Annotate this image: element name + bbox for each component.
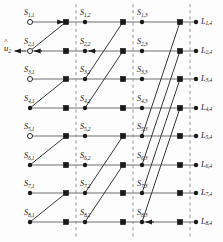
label-c3-r2-subscript: 2,3 — [141, 41, 147, 47]
square-node-c3-r2[interactable] — [120, 48, 125, 53]
dot-node-c4-r2[interactable] — [194, 49, 198, 53]
dot-node-c2-r3[interactable] — [83, 77, 87, 81]
square-node-c2-r7[interactable] — [63, 190, 68, 195]
square-node-c2-r2[interactable] — [63, 48, 68, 53]
u-hat-2-label: u2 — [4, 44, 11, 53]
label-c1-r8-subscript: 8,1 — [28, 212, 34, 218]
label-c4-r4-subscript: 4,4 — [205, 106, 211, 112]
dot-node-c4-r8[interactable] — [194, 220, 198, 224]
label-c4-r5: L5,4 — [201, 132, 212, 140]
dot-node-c1-r6[interactable] — [28, 163, 32, 167]
label-c4-r1: L1,4 — [201, 18, 212, 26]
dot-node-c3-r5[interactable] — [140, 134, 144, 138]
dot-node-c3-r8[interactable] — [140, 220, 144, 224]
dot-node-c1-r4[interactable] — [28, 106, 32, 110]
label-c3-r1-subscript: 1,3 — [141, 12, 147, 18]
label-c2-r3-subscript: 3,2 — [84, 69, 90, 75]
square-node-c2-r3[interactable] — [63, 76, 68, 81]
label-c1-r6-subscript: 6,1 — [28, 155, 34, 161]
open-circle-node-c1-r5[interactable] — [28, 134, 33, 139]
dot-node-c2-r1[interactable] — [83, 20, 87, 24]
label-c2-r5: S5,2 — [80, 123, 90, 131]
label-c2-r4-subscript: 4,2 — [84, 98, 90, 104]
dot-node-c4-r1[interactable] — [194, 20, 198, 24]
label-c4-r2: L2,4 — [201, 47, 212, 55]
square-node-c3-r4[interactable] — [120, 105, 125, 110]
dot-node-c3-r3[interactable] — [140, 77, 144, 81]
square-node-c4-r7[interactable] — [177, 190, 182, 195]
label-c2-r1: S1,2 — [80, 9, 90, 17]
square-node-c3-r6[interactable] — [120, 162, 125, 167]
label-c4-r3: L3,4 — [201, 75, 212, 83]
square-node-c3-r8[interactable] — [120, 219, 125, 224]
square-node-c2-r5[interactable] — [63, 133, 68, 138]
dot-node-c2-r6[interactable] — [83, 163, 87, 167]
label-c2-r6-subscript: 6,2 — [84, 155, 90, 161]
square-node-c2-r6[interactable] — [63, 162, 68, 167]
label-c4-r6-subscript: 6,4 — [205, 163, 211, 169]
dot-node-c2-r2[interactable] — [83, 49, 87, 53]
label-c1-r1: S1,1 — [24, 9, 34, 17]
label-c3-r7-subscript: 7,3 — [141, 183, 147, 189]
square-node-c4-r1[interactable] — [177, 19, 182, 24]
label-c1-r3: S3,1 — [24, 66, 34, 74]
open-circle-node-c1-r3[interactable] — [28, 77, 33, 82]
square-node-c2-r4[interactable] — [63, 105, 68, 110]
u-subscript: 2 — [8, 48, 11, 54]
label-c2-r5-subscript: 5,2 — [84, 126, 90, 132]
square-node-c4-r5[interactable] — [177, 133, 182, 138]
label-c1-r2: S2,1 — [24, 38, 34, 46]
square-node-c3-r3[interactable] — [120, 76, 125, 81]
square-node-c4-r4[interactable] — [177, 105, 182, 110]
dot-node-c4-r3[interactable] — [194, 77, 198, 81]
dot-node-c4-r4[interactable] — [194, 106, 198, 110]
dot-node-c1-r8[interactable] — [28, 220, 32, 224]
dot-node-c3-r7[interactable] — [140, 191, 144, 195]
label-c2-r2: S2,2 — [80, 38, 90, 46]
dot-node-c2-r4[interactable] — [83, 106, 87, 110]
factor-graph-figure: S1,1S2,1S3,1S4,1S5,1S6,1S7,1S8,1S1,2S2,2… — [0, 0, 223, 242]
square-node-c3-r1[interactable] — [120, 19, 125, 24]
square-node-c3-r7[interactable] — [120, 190, 125, 195]
label-c4-r4: L4,4 — [201, 104, 212, 112]
dot-node-c2-r7[interactable] — [83, 191, 87, 195]
label-c2-r8-subscript: 8,2 — [84, 212, 90, 218]
dot-node-c2-r5[interactable] — [83, 134, 87, 138]
dot-node-c4-r5[interactable] — [194, 134, 198, 138]
label-c1-r8: S8,1 — [24, 209, 34, 217]
square-node-c4-r2[interactable] — [177, 48, 182, 53]
label-c3-r3: S3,3 — [137, 66, 147, 74]
open-circle-node-c1-r2[interactable] — [28, 49, 33, 54]
dot-node-c4-r6[interactable] — [194, 163, 198, 167]
label-c4-r2-subscript: 2,4 — [205, 49, 211, 55]
label-c3-r5: S5,3 — [137, 123, 147, 131]
label-c1-r6: S6,1 — [24, 152, 34, 160]
square-node-c2-r1[interactable] — [63, 19, 68, 24]
label-c2-r2-subscript: 2,2 — [84, 41, 90, 47]
factor-graph-canvas — [0, 0, 223, 242]
square-node-c4-r8[interactable] — [177, 219, 182, 224]
label-c3-r7: S7,3 — [137, 180, 147, 188]
label-c1-r4-subscript: 4,1 — [28, 98, 34, 104]
label-c2-r7-subscript: 7,2 — [84, 183, 90, 189]
label-c1-r5-subscript: 5,1 — [28, 126, 34, 132]
label-c4-r3-subscript: 3,4 — [205, 77, 211, 83]
square-node-c4-r6[interactable] — [177, 162, 182, 167]
square-node-c2-r8[interactable] — [63, 219, 68, 224]
square-node-c3-r5[interactable] — [120, 133, 125, 138]
dot-node-c3-r6[interactable] — [140, 163, 144, 167]
dot-node-c3-r4[interactable] — [140, 106, 144, 110]
label-c4-r7: L7,4 — [201, 189, 212, 197]
dot-node-c3-r2[interactable] — [140, 49, 144, 53]
label-c1-r7: S7,1 — [24, 180, 34, 188]
dot-node-c3-r1[interactable] — [140, 20, 144, 24]
dot-node-c2-r8[interactable] — [83, 220, 87, 224]
square-node-c4-r3[interactable] — [177, 76, 182, 81]
label-c3-r5-subscript: 5,3 — [141, 126, 147, 132]
label-c4-r7-subscript: 7,4 — [205, 191, 211, 197]
dot-node-c4-r7[interactable] — [194, 191, 198, 195]
label-c3-r2: S2,3 — [137, 38, 147, 46]
label-c4-r8: L8,4 — [201, 218, 212, 226]
dot-node-c1-r7[interactable] — [28, 191, 32, 195]
open-circle-node-c1-r1[interactable] — [28, 20, 33, 25]
